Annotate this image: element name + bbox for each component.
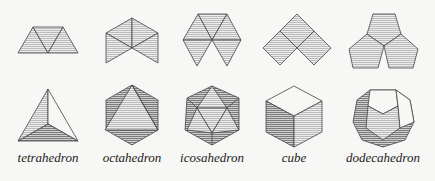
cube-solid bbox=[266, 86, 322, 147]
dodecahedron-solid bbox=[353, 90, 414, 147]
dodecahedron-net bbox=[349, 14, 418, 68]
label-icosahedron: icosahedron bbox=[180, 150, 244, 166]
icosahedron-solid bbox=[185, 86, 239, 145]
icosahedron-net bbox=[183, 14, 241, 66]
tetrahedron-net bbox=[18, 27, 78, 53]
octahedron-net bbox=[106, 18, 158, 63]
label-octahedron: octahedron bbox=[103, 150, 162, 166]
octahedron-solid bbox=[105, 85, 158, 145]
label-cube: cube bbox=[282, 150, 307, 166]
label-tetrahedron: tetrahedron bbox=[18, 150, 79, 166]
label-dodecahedron: dodecahedron bbox=[346, 150, 420, 166]
tetrahedron-solid bbox=[18, 89, 78, 141]
cube-net bbox=[263, 14, 331, 65]
